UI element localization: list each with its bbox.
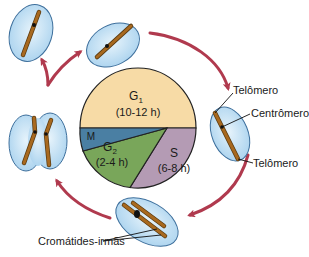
arrow-m-to-daughter-right xyxy=(48,52,80,85)
sister-chromatids-label: Cromátides-irmãs xyxy=(38,235,125,247)
g2-duration: (2-4 h) xyxy=(96,156,128,168)
cell-cycle-diagram: G1 (10-12 h) S (6-8 h) G2 (2-4 h) M xyxy=(0,0,309,257)
g1-duration: (10-12 h) xyxy=(116,106,161,118)
s-label: S xyxy=(170,146,178,160)
centromere-dot xyxy=(105,44,109,48)
centromere-dot xyxy=(32,23,36,27)
arrow-s-to-g2 xyxy=(190,155,248,215)
s-duration: (6-8 h) xyxy=(158,162,190,174)
telomere-top-label: Telômero xyxy=(233,84,278,96)
daughter-cell-right xyxy=(79,14,147,76)
m-label: M xyxy=(87,131,95,142)
dividing-cell xyxy=(9,113,67,171)
telomere-bottom-label: Telômero xyxy=(253,157,298,169)
daughter-cell-left xyxy=(2,0,60,67)
centromere-label: Centrômero xyxy=(251,107,309,119)
arrow-m-to-daughter-left xyxy=(42,60,48,85)
arrow-g2-to-m xyxy=(57,181,110,218)
centromere-dot xyxy=(134,210,140,218)
